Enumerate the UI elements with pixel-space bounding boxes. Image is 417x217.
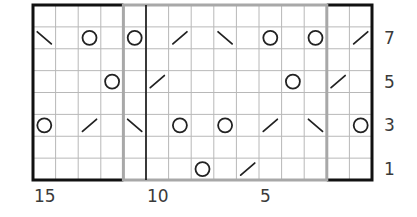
yarn-over-icon bbox=[218, 118, 232, 132]
row-label: 3 bbox=[384, 115, 395, 135]
ssk-icon bbox=[309, 119, 323, 131]
yarn-over-icon bbox=[105, 75, 119, 89]
row-label: 5 bbox=[384, 72, 395, 92]
k2tog-icon bbox=[354, 32, 368, 44]
yarn-over-icon bbox=[128, 31, 142, 45]
ssk-icon bbox=[128, 119, 142, 131]
ssk-icon bbox=[37, 32, 51, 44]
yarn-over-icon bbox=[83, 31, 97, 45]
yarn-over-icon bbox=[354, 118, 368, 132]
row-label: 1 bbox=[384, 159, 395, 179]
k2tog-icon bbox=[150, 76, 164, 88]
column-label: 10 bbox=[147, 186, 169, 206]
knitting-chart: 753115105 bbox=[0, 0, 417, 217]
column-label: 5 bbox=[260, 186, 271, 206]
k2tog-icon bbox=[173, 32, 187, 44]
yarn-over-icon bbox=[37, 118, 51, 132]
yarn-over-icon bbox=[286, 75, 300, 89]
k2tog-icon bbox=[241, 163, 255, 175]
k2tog-icon bbox=[331, 76, 345, 88]
k2tog-icon bbox=[83, 119, 97, 131]
yarn-over-icon bbox=[263, 31, 277, 45]
chart-symbols bbox=[37, 31, 367, 176]
k2tog-icon bbox=[263, 119, 277, 131]
row-label: 7 bbox=[384, 28, 395, 48]
column-label: 15 bbox=[34, 186, 56, 206]
yarn-over-icon bbox=[173, 118, 187, 132]
ssk-icon bbox=[218, 32, 232, 44]
grid-lines bbox=[33, 5, 372, 180]
yarn-over-icon bbox=[309, 31, 323, 45]
yarn-over-icon bbox=[196, 162, 210, 176]
